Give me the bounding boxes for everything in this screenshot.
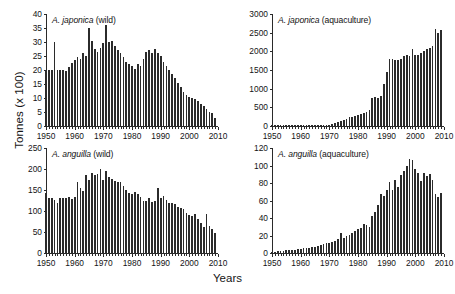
x-tick-mark xyxy=(364,254,365,256)
x-tick-mark xyxy=(367,254,368,256)
x-tick-mark xyxy=(358,254,359,257)
x-tick-mark xyxy=(289,254,290,256)
bar xyxy=(377,205,379,253)
x-tick-mark xyxy=(304,254,305,256)
x-tick-mark xyxy=(332,254,333,256)
x-tick-label: 1980 xyxy=(349,258,368,268)
bar xyxy=(392,190,394,253)
x-tick-label: 1950 xyxy=(263,258,282,268)
bar xyxy=(326,243,328,253)
bar xyxy=(277,251,279,253)
x-tick-mark xyxy=(306,254,307,256)
x-tick-mark xyxy=(275,254,276,256)
x-tick-mark xyxy=(326,254,327,256)
x-tick-mark xyxy=(272,254,273,257)
y-tick-mark xyxy=(270,166,273,167)
bar xyxy=(389,182,391,253)
x-tick-mark xyxy=(415,254,416,257)
x-tick-mark xyxy=(398,254,399,256)
x-tick-mark xyxy=(392,254,393,256)
bar xyxy=(317,246,319,253)
x-tick-mark xyxy=(281,254,282,256)
bar xyxy=(340,233,342,253)
x-tick-mark xyxy=(395,254,396,256)
x-tick-mark xyxy=(301,254,302,257)
y-tick-label: 80 xyxy=(232,178,268,188)
x-tick-mark xyxy=(441,254,442,256)
bar xyxy=(412,160,414,253)
x-tick-mark xyxy=(355,254,356,256)
x-tick-mark xyxy=(430,254,431,256)
x-tick-mark xyxy=(390,254,391,256)
x-tick-mark xyxy=(349,254,350,256)
bar xyxy=(297,249,299,253)
bar xyxy=(285,250,287,253)
bar xyxy=(294,250,296,254)
panel-title-bottom-right: A. anguilla (aquaculture) xyxy=(278,149,369,159)
bar xyxy=(394,180,396,253)
bar xyxy=(383,196,385,253)
x-tick-mark xyxy=(375,254,376,256)
bar xyxy=(432,180,434,253)
x-tick-mark xyxy=(372,254,373,256)
x-tick-mark xyxy=(444,254,445,257)
bar xyxy=(420,181,422,253)
figure-eel-fisheries: Tonnes (x 100) Years 0510152025303540195… xyxy=(0,0,455,294)
y-axis-line-bottom-right xyxy=(272,148,273,253)
y-tick-label: 0 xyxy=(232,248,268,258)
bar xyxy=(426,176,428,253)
bar xyxy=(331,242,333,253)
bar xyxy=(343,238,345,253)
x-tick-mark xyxy=(283,254,284,256)
x-tick-mark xyxy=(312,254,313,256)
x-tick-mark xyxy=(286,254,287,256)
bar xyxy=(369,227,371,253)
x-tick-label: 2000 xyxy=(406,258,425,268)
bar xyxy=(283,251,285,253)
bar xyxy=(357,229,359,253)
x-tick-mark xyxy=(335,254,336,256)
bar xyxy=(366,225,368,253)
x-tick-mark xyxy=(421,254,422,256)
y-tick-mark xyxy=(270,236,273,237)
x-tick-mark xyxy=(433,254,434,256)
panel-bottom-right: 0204060801001201950196019701980199020002… xyxy=(0,0,455,294)
x-tick-mark xyxy=(427,254,428,256)
panel-title-species: A. anguilla xyxy=(278,149,317,159)
bar xyxy=(320,245,322,253)
bar xyxy=(337,239,339,253)
x-tick-mark xyxy=(341,254,342,256)
x-tick-mark xyxy=(401,254,402,256)
bar xyxy=(386,190,388,253)
x-tick-mark xyxy=(407,254,408,256)
x-tick-mark xyxy=(321,254,322,256)
bar xyxy=(374,212,376,253)
x-tick-mark xyxy=(424,254,425,256)
bar xyxy=(274,252,276,253)
x-tick-mark xyxy=(404,254,405,256)
x-tick-label: 1970 xyxy=(320,258,339,268)
bar xyxy=(409,159,411,253)
y-tick-mark xyxy=(270,183,273,184)
x-tick-mark xyxy=(292,254,293,256)
bar xyxy=(380,194,382,253)
bar xyxy=(328,243,330,254)
bar xyxy=(291,250,293,253)
x-tick-mark xyxy=(329,254,330,257)
bar xyxy=(323,244,325,253)
y-tick-mark xyxy=(270,218,273,219)
bar xyxy=(354,231,356,253)
y-tick-label: 100 xyxy=(232,161,268,171)
x-tick-mark xyxy=(278,254,279,256)
bar xyxy=(288,250,290,253)
bar xyxy=(417,173,419,253)
bar xyxy=(363,224,365,253)
x-tick-mark xyxy=(324,254,325,256)
bar xyxy=(429,174,431,253)
bar xyxy=(334,241,336,253)
x-tick-label: 1990 xyxy=(377,258,396,268)
bar xyxy=(403,171,405,253)
x-tick-mark xyxy=(384,254,385,256)
bar xyxy=(397,187,399,254)
x-tick-mark xyxy=(418,254,419,256)
